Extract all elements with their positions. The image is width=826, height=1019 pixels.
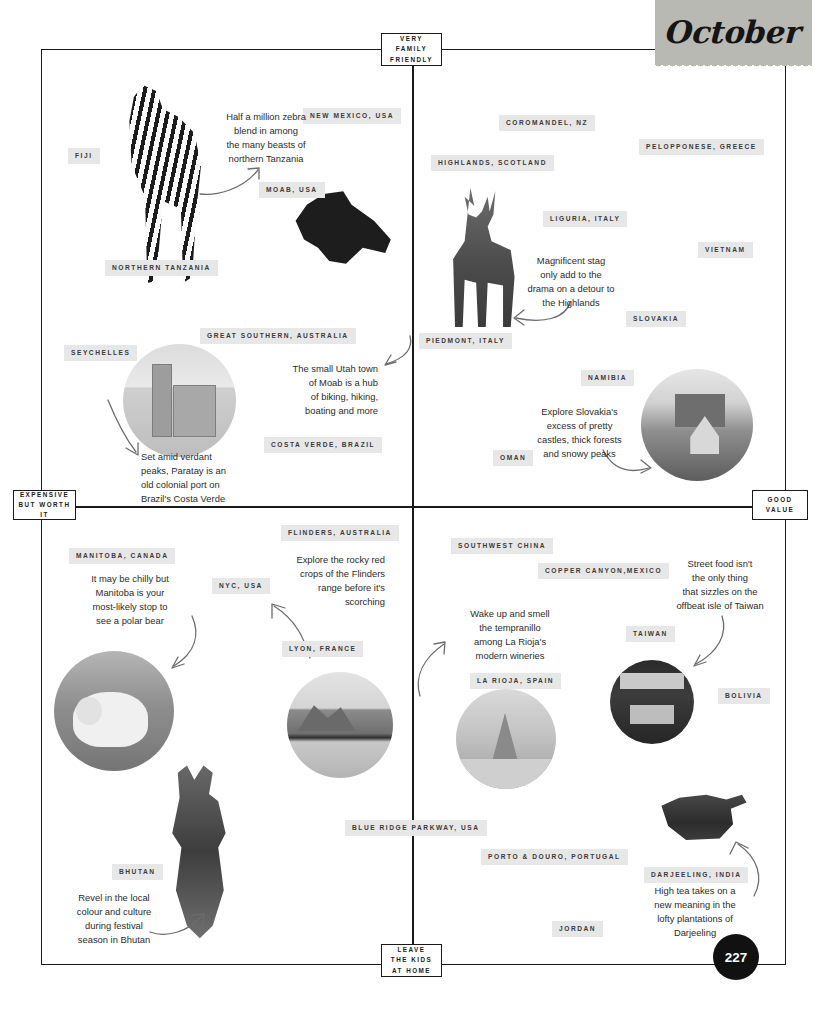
axis-label-left: EXPENSIVE BUT WORTH IT: [13, 490, 76, 520]
horizontal-axis: [41, 506, 786, 508]
pill-bhutan[interactable]: BHUTAN: [112, 864, 163, 880]
axis-label-bottom-line-3: AT HOME: [392, 966, 431, 976]
axis-label-bottom-line-1: LEAVE: [397, 945, 425, 955]
caption-bhutan: Revel in the local colour and culture du…: [62, 891, 166, 947]
axis-label-bottom-line-2: THE KIDS: [391, 955, 432, 965]
pill-fiji[interactable]: FIJI: [68, 148, 100, 164]
pill-northern-tanzania[interactable]: NORTHERN TANZANIA: [105, 260, 218, 276]
arrow-taiwan: [686, 614, 728, 668]
caption-stag: Magnificent stag only add to the drama o…: [512, 254, 630, 310]
caption-flinders: Explore the rocky red crops of the Flind…: [282, 553, 385, 609]
axis-label-right-line-2: VALUE: [766, 505, 794, 515]
axis-label-left-line-1: EXPENSIVE: [20, 490, 69, 500]
pill-vietnam[interactable]: VIETNAM: [698, 242, 753, 258]
pill-seychelles[interactable]: SEYCHELLES: [64, 345, 137, 361]
pill-piedmont-italy[interactable]: PIEDMONT, ITALY: [419, 333, 512, 349]
axis-label-bottom: LEAVE THE KIDS AT HOME: [381, 944, 442, 977]
pill-pelopponese-greece[interactable]: PELOPPONESE, GREECE: [639, 139, 764, 155]
pill-darjeeling-india[interactable]: DARJEELING, INDIA: [644, 867, 748, 883]
month-tag: October: [655, 0, 812, 64]
arrow-moab: [380, 334, 416, 370]
pill-bolivia[interactable]: BOLIVIA: [718, 688, 770, 704]
caption-taiwan: Street food isn't the only thing that si…: [661, 557, 779, 613]
pill-great-southern-australia[interactable]: GREAT SOUTHERN, AUSTRALIA: [200, 328, 356, 344]
pill-namibia[interactable]: NAMIBIA: [581, 370, 634, 386]
axis-label-top-line-2: FAMILY: [396, 44, 428, 54]
pill-costa-verde-brazil[interactable]: COSTA VERDE, BRAZIL: [264, 437, 382, 453]
arrow-la-rioja: [414, 640, 452, 700]
vineyard-photo: [456, 689, 556, 789]
axis-label-top-line-3: FRIENDLY: [390, 55, 433, 65]
caption-slovakia: Explore Slovakia's excess of pretty cast…: [521, 405, 638, 461]
market-photo: [610, 660, 694, 744]
pill-coromandel-nz[interactable]: COROMANDEL, NZ: [499, 115, 595, 131]
pill-la-rioja-spain[interactable]: LA RIOJA, SPAIN: [470, 673, 561, 689]
pill-nyc-usa[interactable]: NYC, USA: [212, 578, 270, 594]
pill-liguria-italy[interactable]: LIGURIA, ITALY: [543, 211, 627, 227]
pill-jordan[interactable]: JORDAN: [552, 921, 603, 937]
page-number: 227: [713, 934, 759, 980]
caption-paraty: Set amid verdant peaks, Paratay is an ol…: [141, 450, 263, 506]
pill-porto-douro-portugal[interactable]: PORTO & DOURO, PORTUGAL: [481, 849, 628, 865]
magazine-page: October VERY FAMILY FRIENDLY LEAVE THE K…: [0, 0, 826, 1019]
axis-label-right: GOOD VALUE: [752, 490, 808, 520]
caption-darjeeling: High tea takes on a new meaning in the l…: [640, 884, 750, 940]
axis-label-right-line-1: GOOD: [767, 495, 792, 505]
pill-highlands-scotland[interactable]: HIGHLANDS, SCOTLAND: [431, 155, 554, 171]
pill-flinders-australia[interactable]: FLINDERS, AUSTRALIA: [281, 525, 399, 541]
pill-manitoba-canada[interactable]: MANITOBA, CANADA: [69, 548, 175, 564]
polar-bear-photo: [54, 651, 174, 771]
pill-southwest-china[interactable]: SOUTHWEST CHINA: [451, 538, 553, 554]
castle-photo: [641, 369, 753, 481]
axis-label-left-line-2: BUT WORTH IT: [14, 500, 75, 520]
caption-la-rioja: Wake up and smell the tempranillo among …: [454, 607, 566, 663]
caption-manitoba: It may be chilly but Manitoba is your mo…: [63, 572, 197, 628]
pill-slovakia[interactable]: SLOVAKIA: [626, 311, 686, 327]
pill-lyon-france[interactable]: LYON, FRANCE: [282, 641, 363, 657]
axis-label-top-line-1: VERY: [400, 34, 423, 44]
caption-zebra: Half a million zebra blend in among the …: [200, 110, 332, 166]
caption-moab: The small Utah town of Moab is a hub of …: [268, 362, 378, 418]
pill-blue-ridge-parkway-usa[interactable]: BLUE RIDGE PARKWAY, USA: [345, 820, 487, 836]
pill-copper-canyon-mexico[interactable]: COPPER CANYON,MEXICO: [538, 563, 669, 579]
mountain-photo: [287, 672, 393, 778]
pill-moab-usa[interactable]: MOAB, USA: [259, 182, 325, 198]
month-label: October: [665, 14, 803, 50]
axis-label-top: VERY FAMILY FRIENDLY: [381, 33, 442, 66]
pill-taiwan[interactable]: TAIWAN: [626, 626, 675, 642]
